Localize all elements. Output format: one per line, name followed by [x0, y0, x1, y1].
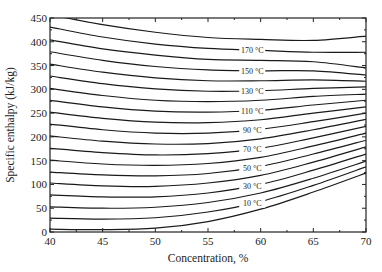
y-tick-labels: 050100150200250300350400450 — [31, 12, 48, 238]
y-tick-label: 350 — [31, 60, 48, 72]
y-tick-label: 150 — [31, 155, 48, 167]
x-tick-label: 65 — [308, 235, 320, 247]
y-tick-label: 0 — [42, 226, 48, 238]
isotherm-curve — [50, 76, 366, 91]
x-axis-title: Concentration, % — [168, 252, 249, 265]
axis-ticks — [50, 18, 366, 232]
isotherm-curves — [50, 15, 366, 230]
curve-label: 130 °C — [241, 87, 264, 96]
x-tick-labels: 40455055606570 — [45, 235, 373, 247]
x-tick-label: 50 — [150, 235, 162, 247]
curve-label: 110 °C — [241, 107, 263, 116]
isotherm-labels: 10 °C30 °C50 °C70 °C90 °C110 °C130 °C150… — [239, 46, 265, 209]
curve-label: 30 °C — [243, 182, 262, 191]
y-axis-title: Specific enthalpy (kJ/kg) — [4, 67, 17, 183]
isotherm-curve — [50, 88, 366, 101]
isotherm-curve — [50, 173, 366, 230]
curve-label: 90 °C — [243, 126, 262, 135]
isotherm-curve — [50, 40, 366, 68]
x-tick-label: 60 — [255, 235, 267, 247]
enthalpy-concentration-chart: 10 °C30 °C50 °C70 °C90 °C110 °C130 °C150… — [0, 0, 382, 272]
isotherm-curve — [50, 140, 366, 176]
isotherm-curve — [50, 64, 366, 81]
x-tick-label: 55 — [203, 235, 215, 247]
x-tick-label: 70 — [361, 235, 373, 247]
y-tick-label: 200 — [31, 131, 48, 143]
y-tick-label: 100 — [31, 178, 48, 190]
curve-label: 150 °C — [241, 67, 264, 76]
isotherm-curve — [50, 113, 366, 133]
curve-label: 10 °C — [243, 199, 262, 208]
curve-label: 50 °C — [243, 164, 262, 173]
x-tick-label: 45 — [97, 235, 109, 247]
curve-label: 70 °C — [243, 145, 262, 154]
y-tick-label: 250 — [31, 107, 48, 119]
curve-label: 170 °C — [241, 46, 264, 55]
y-tick-label: 400 — [31, 36, 48, 48]
plot-frame — [50, 18, 366, 232]
y-tick-label: 450 — [31, 12, 48, 24]
y-tick-label: 50 — [36, 202, 48, 214]
y-tick-label: 300 — [31, 83, 48, 95]
